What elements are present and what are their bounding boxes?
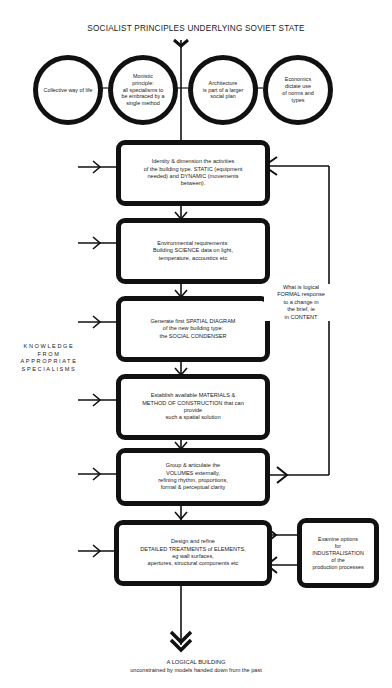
- step-detailed-treatments: Design and refine DETAILED TREATMENTS of…: [114, 520, 272, 586]
- outcome-subtitle: unconstrained by models handed down from…: [0, 667, 392, 673]
- feedback-note: What is logical FORMAL response to a cha…: [264, 284, 338, 321]
- step-spatial-diagram: Generate first SPATIAL DIAGRAM of the ne…: [116, 296, 270, 362]
- knowledge-label: KNOWLEDGE FROM APPROPRIATE SPECIALISMS: [14, 343, 84, 373]
- principle-collective-way-of-life: Collective way of life: [33, 55, 103, 125]
- step-group-volumes: Group & articulate the VOLUMES externall…: [116, 448, 270, 506]
- step-materials-construction: Establish available MATERIALS & METHOD O…: [116, 374, 270, 440]
- diagram-title: SOCIALIST PRINCIPLES UNDERLYING SOVIET S…: [0, 24, 392, 33]
- step-environmental-requirements: Environmental requirements: Building SCI…: [116, 218, 270, 284]
- principle-economics: Economics dictate use of norms and types: [263, 55, 333, 125]
- industrialisation-box: Examine options for INDUSTRALISATION of …: [297, 518, 379, 588]
- principle-architecture-social-plan: Architecture is part of a larger social …: [188, 55, 258, 125]
- outcome-title: A LOGICAL BUILDING: [0, 659, 392, 665]
- step-identify-activities: Identity & dimension the activities of t…: [116, 140, 270, 206]
- principle-monistic: Monistic principle: all specialisms to b…: [108, 55, 178, 125]
